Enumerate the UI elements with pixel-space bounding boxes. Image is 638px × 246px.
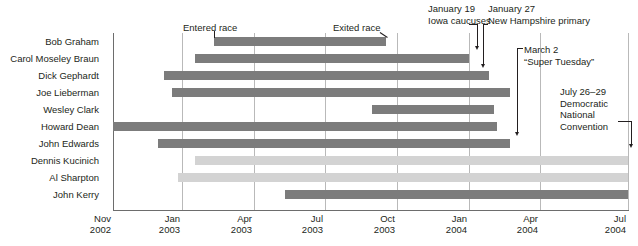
row-label-carol-moseley-braun: Carol Moseley Braun: [10, 54, 99, 64]
annotation-nh-line1: January 27: [488, 3, 535, 14]
row-label-dennis-kucinich: Dennis Kucinich: [31, 156, 99, 166]
annotation-iowa-line2: Iowa caucuses: [428, 15, 491, 26]
annotation-exited-race: Exited race: [333, 22, 381, 34]
leader-dnc-vertical: [631, 121, 632, 146]
row-label-bob-graham: Bob Graham: [45, 37, 99, 47]
row-label-wesley-clark: Wesley Clark: [43, 105, 99, 115]
bar-john-edwards: [158, 139, 510, 148]
annotation-st-line1: March 2: [524, 44, 558, 55]
row-label-howard-dean: Howard Dean: [41, 122, 99, 132]
arrow-new-hampshire: [481, 64, 485, 68]
bar-dennis-kucinich: [195, 156, 628, 165]
annotation-super-tuesday: March 2 “Super Tuesday”: [524, 44, 604, 67]
leader-iowa-vertical: [477, 24, 478, 48]
xtick-apr-2004: Apr 2004: [500, 213, 538, 235]
annotation-nh-line2: New Hampshire primary: [488, 15, 590, 26]
campaign-timeline-chart: Bob Graham Carol Moseley Braun Dick Geph…: [0, 0, 638, 246]
xtick-jul-2003: Jul 2003: [285, 213, 323, 235]
row-label-john-edwards: John Edwards: [39, 139, 99, 149]
annotation-iowa-line1: January 19: [428, 3, 475, 14]
bar-dick-gephardt: [164, 71, 489, 80]
xtick-nov-2002: Nov 2002: [73, 213, 111, 235]
row-label-al-sharpton: Al Sharpton: [49, 173, 99, 183]
row-label-john-kerry: John Kerry: [53, 190, 99, 200]
annotation-st-line2: “Super Tuesday”: [524, 56, 594, 67]
arrow-iowa-caucuses: [475, 46, 479, 50]
row-label-joe-lieberman: Joe Lieberman: [36, 88, 99, 98]
bar-bob-graham: [214, 37, 386, 46]
annotation-dnc: July 26–29 Democratic National Conventio…: [560, 86, 628, 132]
annotation-dnc-line1: July 26–29: [560, 86, 606, 97]
arrow-dnc: [629, 144, 633, 148]
bar-joe-lieberman: [172, 88, 510, 97]
bar-howard-dean: [113, 122, 497, 131]
leader-entered-race: [214, 31, 215, 38]
x-axis-baseline: [113, 210, 629, 211]
bar-al-sharpton: [178, 173, 628, 182]
annotation-new-hampshire: January 27 New Hampshire primary: [488, 3, 608, 26]
annotation-dnc-line3: National: [560, 109, 595, 120]
leader-dnc-horizontal: [618, 121, 632, 122]
xtick-jan-2004: Jan 2004: [429, 213, 467, 235]
leader-nh-vertical: [483, 24, 484, 66]
xtick-apr-2003: Apr 2003: [214, 213, 252, 235]
xtick-oct-2003: Oct 2003: [357, 213, 395, 235]
xtick-jul-2004: Jul 2004: [588, 213, 626, 235]
arrow-super-tuesday: [515, 132, 519, 136]
bar-wesley-clark: [372, 105, 494, 114]
annotation-entered-race: Entered race: [183, 22, 237, 34]
annotation-dnc-line2: Democratic: [560, 98, 608, 109]
annotation-dnc-line4: Convention: [560, 121, 608, 132]
candidate-label-column: Bob Graham Carol Moseley Braun Dick Geph…: [0, 0, 99, 210]
bar-john-kerry: [285, 190, 628, 199]
xtick-jan-2003: Jan 2003: [142, 213, 180, 235]
bar-carol-moseley-braun: [195, 54, 469, 63]
row-label-dick-gephardt: Dick Gephardt: [38, 71, 99, 81]
leader-super-tuesday-vertical: [517, 48, 518, 134]
